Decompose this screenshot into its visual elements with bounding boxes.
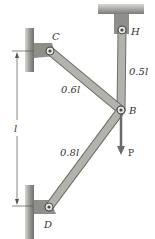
left-wall-c <box>25 28 34 72</box>
label-c: C <box>52 31 60 42</box>
left-wall-d <box>25 185 34 239</box>
pin-b-icon <box>117 106 125 114</box>
pin-c-icon <box>46 47 54 55</box>
pin-h-icon <box>118 26 126 34</box>
dimension-arrow-up <box>15 52 19 58</box>
mechanism-diagram: C H B D 0.6l 0.5l 0.8l P l <box>0 0 155 239</box>
top-wall <box>98 4 144 14</box>
label-d: D <box>43 219 52 230</box>
dimension-arrow-down <box>15 199 19 205</box>
label-cb-length: 0.6l <box>61 84 80 95</box>
label-b: B <box>128 105 136 116</box>
pin-d-icon <box>45 203 53 211</box>
label-dimension: l <box>14 123 17 134</box>
label-h: H <box>130 26 140 37</box>
label-hb-length: 0.5l <box>129 66 148 77</box>
label-db-length: 0.8l <box>60 147 79 158</box>
label-load: P <box>128 148 134 158</box>
load-arrowhead <box>117 146 125 155</box>
